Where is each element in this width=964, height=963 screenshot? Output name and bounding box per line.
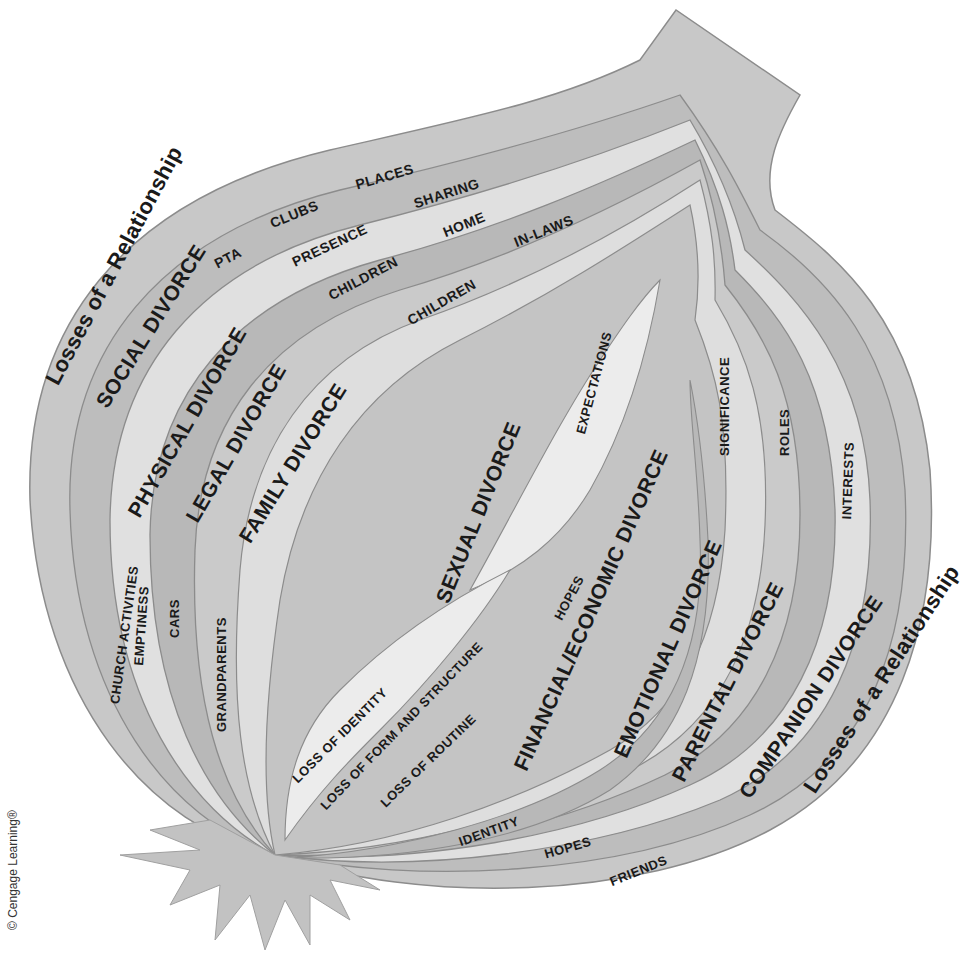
- label-interests: INTERESTS: [840, 442, 856, 520]
- label-roles: ROLES: [778, 409, 791, 456]
- label-grandparents: GRANDPARENTS: [215, 617, 228, 732]
- copyright-credit: © Cengage Learning®: [6, 810, 20, 930]
- label-cars: CARS: [168, 599, 181, 638]
- label-significance: SIGNIFICANCE: [718, 357, 731, 456]
